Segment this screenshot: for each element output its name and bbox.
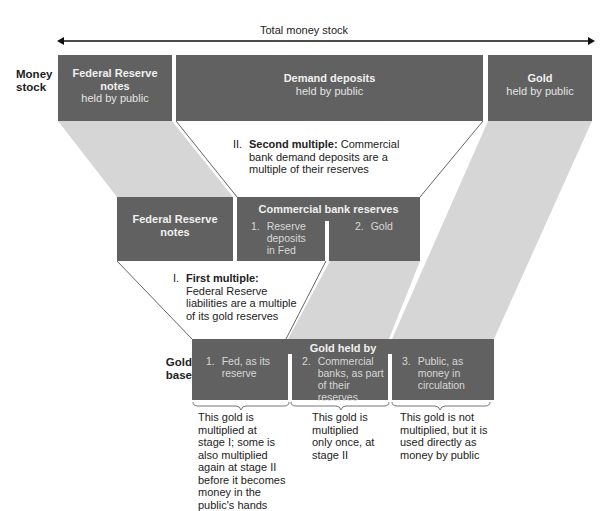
box-subtitle: held by public bbox=[58, 92, 172, 105]
footnote-public-gold: This gold is not multiplied, but it is u… bbox=[400, 411, 490, 461]
box-subtitle: held by public bbox=[176, 85, 483, 98]
gold-held-by-public-box: Gold held by public bbox=[488, 55, 592, 121]
reserve-item-2: 2. Gold bbox=[355, 220, 415, 232]
box-title: Federal Reserve notes bbox=[58, 67, 172, 92]
box-title: Demand deposits bbox=[176, 72, 483, 85]
reserve-item-1: 1. Reserve deposits in Fed bbox=[251, 220, 321, 256]
first-multiple-note: I. First multiple: Federal Reserve liabi… bbox=[173, 272, 303, 322]
box-title: Commercial bank reserves bbox=[237, 203, 420, 216]
gold-holder-2: 2. Commercial banks, as part of their re… bbox=[302, 355, 387, 403]
gold-holder-3: 3. Public, as money in circulation bbox=[402, 355, 492, 391]
box-subtitle: held by public bbox=[488, 85, 592, 98]
total-arrow bbox=[57, 37, 595, 45]
fr-notes-held-by-public-box: Federal Reserve notes held by public bbox=[58, 55, 172, 121]
braces bbox=[193, 402, 490, 410]
gold-held-by-box: Gold held by 1. Fed, as its reserve 2. C… bbox=[192, 339, 494, 400]
box-title: Gold bbox=[488, 72, 592, 85]
total-money-stock-label: Total money stock bbox=[0, 24, 608, 36]
gold-base-label: Gold base bbox=[156, 356, 192, 382]
divider bbox=[288, 354, 292, 400]
fr-notes-box: Federal Reserve notes bbox=[117, 197, 233, 261]
divider bbox=[325, 221, 329, 261]
box-title: Federal Reserve notes bbox=[117, 213, 233, 238]
commercial-bank-reserves-box: Commercial bank reserves 1. Reserve depo… bbox=[237, 197, 420, 261]
gold-holder-1: 1. Fed, as its reserve bbox=[206, 355, 286, 379]
second-multiple-note: II. Second multiple: Commercial bank dem… bbox=[233, 138, 423, 176]
box-title: Gold held by bbox=[192, 342, 494, 355]
footnote-bank-gold: This gold is multiplied only once, at st… bbox=[312, 411, 380, 461]
divider bbox=[388, 354, 392, 400]
footnote-fed-gold: This gold is multiplied at stage I; some… bbox=[198, 411, 286, 511]
demand-deposits-box: Demand deposits held by public bbox=[176, 55, 483, 121]
